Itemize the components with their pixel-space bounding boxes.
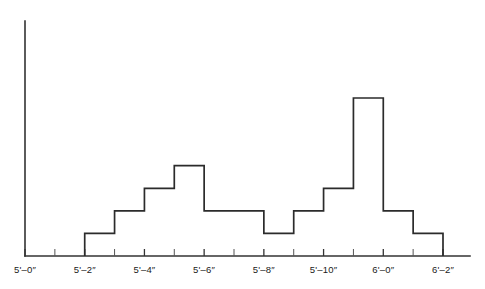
x-tick-label: 5'–10″: [310, 264, 338, 275]
histogram-outline: [85, 98, 443, 256]
x-tick-label: 5'–4″: [133, 264, 155, 275]
x-tick-label: 5'–8″: [253, 264, 275, 275]
x-tick-label: 5'–6″: [193, 264, 215, 275]
x-tick-label: 5'–2″: [74, 264, 96, 275]
x-tick-label: 5'–0″: [14, 264, 36, 275]
histogram-plot: [0, 0, 485, 289]
axes-group: [25, 21, 470, 256]
histogram-figure: 5'–0″5'–2″5'–4″5'–6″5'–8″5'–10″6'–0″6'–2…: [0, 0, 485, 289]
x-tick-label: 6'–2″: [432, 264, 454, 275]
x-tick-label: 6'–0″: [372, 264, 394, 275]
x-axis-ticks: [25, 249, 443, 256]
